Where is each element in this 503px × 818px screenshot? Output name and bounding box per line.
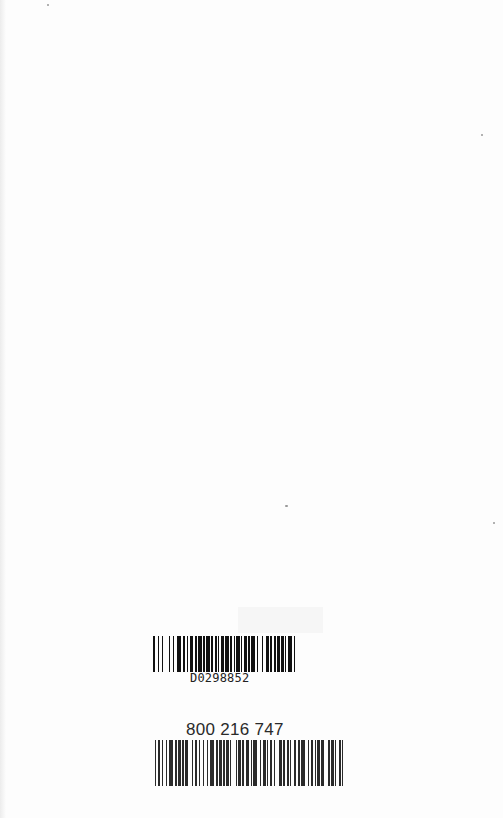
library-barcode (153, 636, 299, 672)
isbn-barcode (155, 740, 347, 786)
page-edge-shadow (0, 0, 6, 818)
scan-speck (47, 4, 49, 6)
barcode-gap (295, 636, 298, 672)
scan-speck (285, 505, 288, 507)
isbn-barcode-number: 800 216 747 (186, 720, 284, 740)
scan-speck (481, 134, 483, 136)
barcode-gap (343, 740, 346, 786)
faint-label-area (238, 607, 323, 633)
library-barcode-number: D0298852 (190, 671, 270, 685)
scan-speck (493, 522, 495, 524)
